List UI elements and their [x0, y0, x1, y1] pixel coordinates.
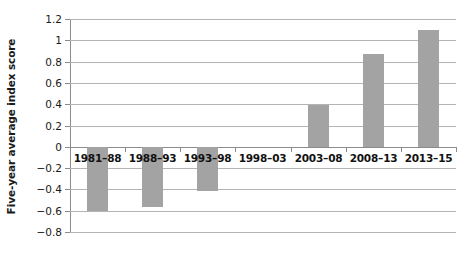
gridline — [70, 189, 456, 190]
y-axis-tick-label: 0 — [6, 141, 62, 153]
y-axis-tick-label: 0.8 — [6, 56, 62, 68]
bar — [418, 30, 439, 147]
y-axis-tick-label: 0.2 — [6, 120, 62, 132]
y-axis-tick-label: −0.8 — [6, 226, 62, 238]
gridline — [70, 19, 456, 20]
gridline — [70, 83, 456, 84]
x-axis-tick-mark — [456, 147, 457, 152]
x-axis-category-label: 1993–98 — [180, 152, 235, 164]
bar — [363, 54, 384, 147]
x-axis-category-label: 2013–15 — [401, 152, 456, 164]
x-axis-category-label: 1988–93 — [125, 152, 180, 164]
bar-chart: Five-year average index score 1.210.80.6… — [0, 0, 472, 253]
y-axis-tick-label: 0.4 — [6, 98, 62, 110]
y-axis-tick-label: 1 — [6, 34, 62, 46]
plot-area — [70, 19, 456, 232]
y-axis-tick-label: 0.6 — [6, 77, 62, 89]
gridline — [70, 104, 456, 105]
gridline — [70, 232, 456, 233]
x-axis-category-label: 1998–03 — [235, 152, 290, 164]
x-axis-category-label: 2008–13 — [346, 152, 401, 164]
y-axis-tick-label: −0.2 — [6, 162, 62, 174]
gridline — [70, 62, 456, 63]
y-axis-tick-label: −0.4 — [6, 183, 62, 195]
x-axis-category-label: 1981–88 — [70, 152, 125, 164]
x-axis-category-label: 2003–08 — [291, 152, 346, 164]
bar — [308, 105, 329, 147]
y-axis-tick-label: −0.6 — [6, 205, 62, 217]
y-axis-tick-label: 1.2 — [6, 13, 62, 25]
gridline — [70, 211, 456, 212]
gridline — [70, 147, 456, 148]
gridline — [70, 126, 456, 127]
gridline — [70, 168, 456, 169]
gridline — [70, 40, 456, 41]
